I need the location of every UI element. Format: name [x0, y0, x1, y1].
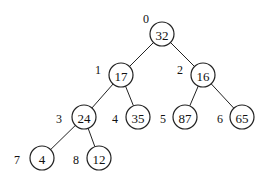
- tree-node: 128: [73, 146, 111, 170]
- node-index-label: 2: [177, 63, 183, 77]
- tree-node: 320: [143, 12, 174, 46]
- tree-node: 875: [160, 105, 197, 129]
- heap-tree-diagram: 32017116224335487565647128: [0, 0, 270, 181]
- node-index-label: 7: [14, 153, 20, 167]
- node-index-label: 3: [56, 112, 62, 126]
- tree-edge: [129, 42, 153, 66]
- node-index-label: 5: [160, 112, 166, 126]
- node-index-label: 1: [95, 63, 101, 77]
- node-value: 4: [39, 152, 46, 167]
- node-value: 12: [93, 152, 106, 167]
- tree-edge: [211, 84, 234, 108]
- tree-edge: [92, 84, 113, 108]
- node-index-label: 6: [217, 112, 223, 126]
- tree-node: 171: [95, 63, 133, 87]
- tree-edge: [190, 86, 199, 106]
- tree-edge: [126, 86, 134, 106]
- tree-node: 354: [112, 105, 150, 129]
- tree-edges: [51, 42, 234, 149]
- tree-node: 656: [217, 105, 254, 129]
- node-value: 35: [132, 111, 145, 126]
- tree-node: 47: [14, 146, 54, 170]
- tree-edge: [88, 128, 95, 146]
- node-value: 65: [236, 111, 249, 126]
- node-value: 32: [156, 28, 169, 43]
- node-value: 87: [179, 111, 193, 126]
- node-value: 16: [197, 69, 211, 84]
- node-index-label: 8: [73, 153, 79, 167]
- node-value: 24: [78, 111, 92, 126]
- node-index-label: 4: [112, 112, 118, 126]
- tree-node: 243: [56, 105, 96, 129]
- tree-edge: [51, 125, 76, 149]
- node-value: 17: [115, 69, 129, 84]
- tree-node: 162: [177, 63, 215, 87]
- node-index-label: 0: [143, 12, 149, 26]
